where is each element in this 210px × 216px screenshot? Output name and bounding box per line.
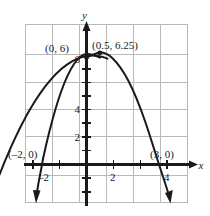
parabola-left-branch — [43, 54, 100, 159]
graph-figure: –2 2 4 2 4 6 x y (0, 6) (0.5, 6.25) (–2,… — [0, 0, 210, 216]
label-y-intercept: (0, 6) — [45, 42, 69, 55]
label-x-intercept-right: (3, 0) — [150, 148, 174, 161]
x-axis-arrow-icon — [189, 161, 198, 169]
parabola-curve — [0, 56, 108, 211]
curve-right-arrow-icon — [165, 190, 173, 204]
label-vertex: (0.5, 6.25) — [92, 39, 138, 52]
y-tick-label-2: 2 — [75, 131, 81, 143]
y-tick-label-4: 4 — [75, 103, 81, 115]
y-axis-label: y — [81, 9, 87, 21]
y-axis-arrow-icon — [83, 21, 91, 31]
curve-left-arrow-icon — [33, 190, 41, 204]
point-marker-vertex — [97, 50, 102, 55]
x-tick-label--2: –2 — [37, 171, 49, 183]
x-axis-label: x — [198, 159, 204, 171]
point-marker-y-intercept — [84, 55, 89, 60]
x-tick-label-2: 2 — [110, 171, 116, 183]
parabola-plot: –2 2 4 2 4 6 x y (0, 6) (0.5, 6.25) (–2,… — [0, 0, 210, 216]
y-tick-label-6: 6 — [75, 53, 81, 65]
label-x-intercept-left: (–2, 0) — [8, 148, 38, 161]
x-tick-label-4: 4 — [164, 171, 170, 183]
